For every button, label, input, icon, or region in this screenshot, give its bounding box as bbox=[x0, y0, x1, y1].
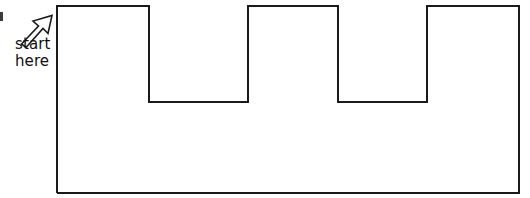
annotation-line-start: start bbox=[15, 36, 50, 53]
left-edge-mark bbox=[0, 12, 3, 21]
waveform-figure bbox=[0, 0, 530, 198]
annotation-line-here: here bbox=[15, 53, 49, 70]
figure-background bbox=[0, 0, 530, 198]
